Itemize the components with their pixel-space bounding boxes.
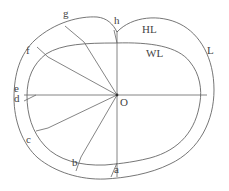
label-b: b — [72, 156, 78, 168]
label-l: L — [207, 44, 214, 56]
ray-b — [81, 95, 117, 157]
label-a: a — [114, 163, 119, 175]
label-f: f — [26, 44, 30, 56]
inner-boundary-curve — [27, 43, 201, 165]
label-wl: WL — [146, 47, 163, 59]
label-hl: HL — [142, 23, 157, 35]
connector-c — [36, 128, 48, 131]
ray-f — [48, 57, 117, 95]
ray-c — [48, 95, 117, 128]
label-g: g — [63, 7, 69, 19]
ray-g — [84, 42, 117, 95]
connector-f — [37, 47, 48, 57]
label-center: O — [120, 96, 128, 108]
label-h: h — [114, 14, 120, 26]
center-point — [116, 94, 119, 97]
label-e: e — [14, 82, 19, 94]
connector-g — [65, 26, 84, 42]
diagram-canvas: O HL WL L a b c d e f g h — [0, 0, 229, 191]
outer-boundary-curve — [14, 17, 214, 179]
connector-d — [24, 95, 36, 101]
label-c: c — [26, 133, 31, 145]
